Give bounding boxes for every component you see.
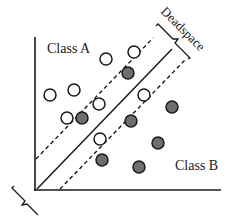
class-b-label: Class B: [175, 158, 218, 173]
class-a-label: Class A: [47, 41, 91, 56]
deadspace-label: Deadspace: [158, 4, 209, 55]
class-a-open-point: [138, 89, 150, 101]
class-b-filled-point: [76, 112, 88, 124]
class-a-open-point: [68, 84, 80, 96]
class-a-points: [44, 46, 150, 145]
class-a-open-point: [128, 46, 140, 58]
class-b-filled-point: [152, 137, 164, 149]
class-a-open-point: [61, 112, 73, 124]
class-a-open-point: [94, 133, 106, 145]
class-b-filled-point: [125, 115, 137, 127]
lower-margin-dashed-line: [60, 60, 185, 189]
class-a-open-point: [93, 98, 105, 110]
class-b-filled-point: [96, 154, 108, 166]
class-b-filled-point: [122, 67, 134, 79]
svm-margin-diagram: Deadspace Class A Class B: [0, 0, 229, 217]
class-a-open-point: [100, 53, 112, 65]
class-b-filled-point: [133, 161, 145, 173]
decision-boundary-line: [37, 49, 172, 189]
class-b-filled-point: [166, 101, 178, 113]
class-a-open-point: [44, 89, 56, 101]
